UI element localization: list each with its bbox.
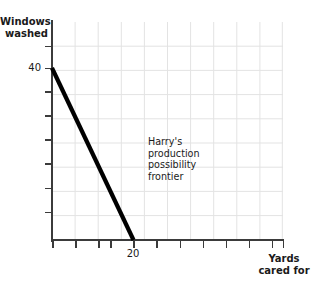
y-axis-tick xyxy=(45,212,52,214)
plot-area xyxy=(52,22,283,240)
x-axis-tick xyxy=(110,241,112,248)
y-axis-title: Windows washed xyxy=(0,16,48,39)
x-axis-title: Yards cared for xyxy=(252,253,316,276)
x-axis-tick-label-20: 20 xyxy=(113,248,153,259)
grid-lines xyxy=(52,22,283,240)
x-axis-tick xyxy=(75,241,77,248)
y-axis-tick xyxy=(45,46,52,48)
y-axis-tick xyxy=(45,188,52,190)
x-axis-tick xyxy=(98,241,100,248)
x-axis-tick xyxy=(180,241,182,248)
x-axis-tick xyxy=(226,241,228,248)
ppf-annotation-label: Harry's production possibility frontier xyxy=(148,136,200,182)
x-axis-tick xyxy=(52,241,54,248)
ppf-chart-figure: Windows washed Yards cared for 40 20 Har… xyxy=(0,0,318,285)
x-axis-tick-20 xyxy=(133,241,135,248)
y-axis-line xyxy=(51,20,53,242)
y-axis-tick-40 xyxy=(45,68,52,70)
x-axis-tick xyxy=(272,241,274,248)
x-axis-tick xyxy=(249,241,251,248)
y-axis-tick xyxy=(45,139,52,141)
y-axis-tick-label-40: 40 xyxy=(8,62,41,73)
x-axis-tick xyxy=(283,241,285,248)
y-axis-tick xyxy=(45,91,52,93)
y-axis-tick xyxy=(45,115,52,117)
x-axis-tick xyxy=(156,241,158,248)
x-axis-tick xyxy=(203,241,205,248)
y-axis-tick xyxy=(45,163,52,165)
